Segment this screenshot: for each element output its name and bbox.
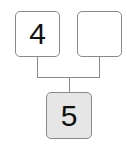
number-value: 4 bbox=[29, 17, 46, 51]
connector-right-vertical bbox=[99, 57, 100, 77]
number-box-top-right[interactable] bbox=[77, 11, 122, 57]
number-value: 5 bbox=[61, 99, 78, 133]
number-box-top-left: 4 bbox=[15, 11, 60, 57]
connector-down bbox=[69, 77, 70, 92]
number-box-total: 5 bbox=[46, 92, 92, 139]
connector-left-vertical bbox=[37, 57, 38, 77]
